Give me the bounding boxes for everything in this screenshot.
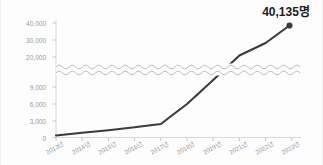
y-tick-label: 20,000: [26, 54, 46, 61]
x-tick-label: 2015년: [97, 140, 118, 155]
y-tick-marks: [53, 23, 57, 138]
y-axis-tick-labels: 40,000 30,000 20,000 9,000 6,000 3,000 0: [26, 20, 46, 142]
value-annotation: 40,135명: [262, 5, 310, 19]
x-tick-label: 2023년: [280, 140, 301, 155]
x-tick-label: 2019년: [202, 140, 223, 155]
y-tick-label: 6,000: [30, 101, 47, 108]
chart-card: 40,000 30,000 20,000 9,000 6,000 3,000 0: [0, 0, 323, 165]
y-tick-label: 9,000: [30, 84, 47, 91]
y-tick-label: 0: [42, 135, 46, 142]
y-tick-label: 30,000: [26, 37, 46, 44]
x-tick-label: 2016년: [123, 140, 144, 155]
x-tick-label: 2017년: [149, 140, 170, 155]
x-tick-label: 2013년: [44, 140, 65, 155]
x-tick-marks: [56, 138, 292, 142]
y-tick-label: 40,000: [26, 20, 46, 27]
x-tick-label: 2022년: [254, 140, 275, 155]
x-tick-label: 2018년: [175, 140, 196, 155]
endpoint-marker: [286, 22, 292, 28]
x-axis-tick-labels: 2013년 2014년 2015년 2016년 2017년 2018년 2019…: [44, 140, 301, 155]
data-series-line: [56, 26, 290, 136]
line-chart: 40,000 30,000 20,000 9,000 6,000 3,000 0: [1, 0, 323, 165]
x-tick-label: 2014년: [71, 140, 92, 155]
x-tick-label: 2021년: [228, 140, 249, 155]
y-tick-label: 3,000: [30, 118, 47, 125]
